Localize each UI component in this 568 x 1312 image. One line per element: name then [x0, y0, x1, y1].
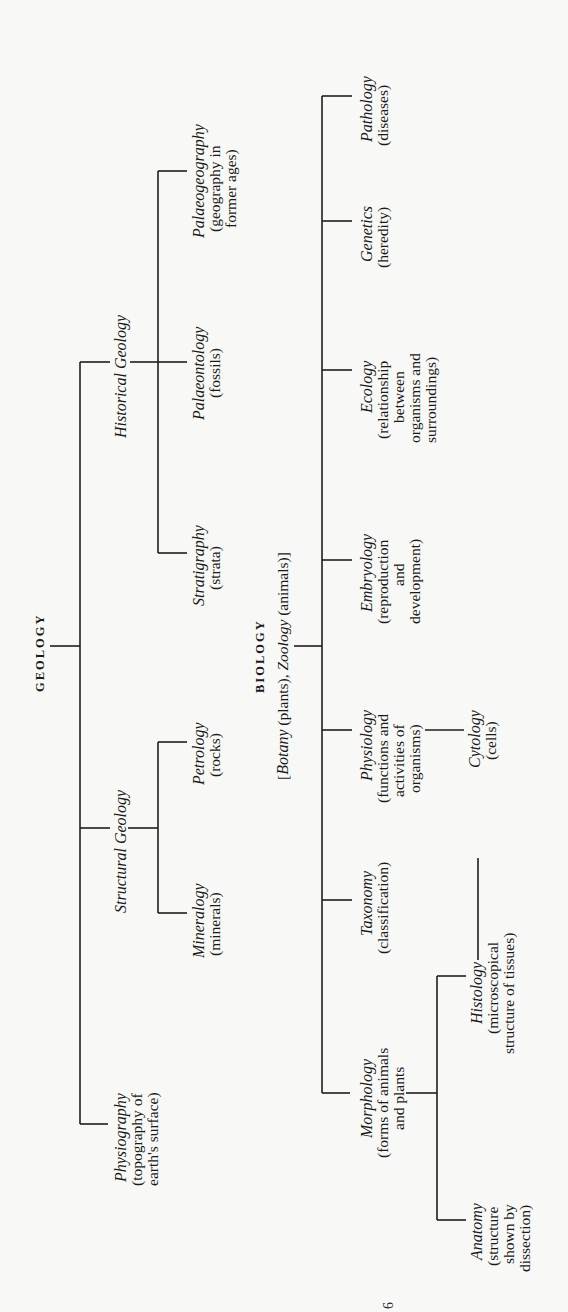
genetics-node: Genetics (heredity)	[358, 206, 392, 268]
palaeontology-node: Palaeontology (fossils)	[190, 326, 224, 421]
petrology-node: Petrology (rocks)	[190, 722, 224, 786]
historical-geology-label: Historical Geology	[112, 314, 130, 439]
page-mark: 6	[381, 1302, 396, 1309]
taxonomy-node: Taxonomy (classification)	[358, 862, 392, 954]
svg-text:and: and	[390, 563, 407, 586]
svg-text:earth's surface): earth's surface)	[144, 1092, 162, 1186]
svg-text:activities of: activities of	[390, 723, 407, 797]
svg-text:(rocks): (rocks)	[206, 733, 224, 777]
svg-text:organisms): organisms)	[406, 724, 424, 793]
svg-text:(strata): (strata)	[206, 546, 224, 590]
anatomy-node: Anatomy (structure shown by dissection)	[468, 1202, 534, 1272]
histology-node: Histology (microscopical structure of ti…	[468, 933, 518, 1054]
svg-text:structure of tissues): structure of tissues)	[500, 933, 518, 1054]
zoology-desc: (animals)]	[274, 552, 292, 616]
embryology-node: Embryology (reproduction and development…	[358, 533, 424, 624]
biology-root-subtitle: [Botany (plants), Zoology (animals)]	[274, 552, 292, 780]
zoology-label: Zoology	[274, 620, 291, 671]
svg-text:(classification): (classification)	[374, 862, 392, 954]
svg-text:dissection): dissection)	[516, 1205, 534, 1272]
geology-root-label: GEOLOGY	[33, 613, 47, 692]
svg-text:(heredity): (heredity)	[374, 207, 392, 268]
svg-text:former ages): former ages)	[222, 149, 240, 228]
svg-text:(diseases): (diseases)	[374, 85, 392, 146]
geology-tree-lines	[50, 171, 187, 1124]
classification-tree-diagram: GEOLOGY Historical Geology Palaeogeograp…	[0, 0, 568, 1312]
stratigraphy-node: Stratigraphy (strata)	[190, 524, 224, 606]
ecology-node: Ecology (relationship between organisms …	[358, 353, 440, 443]
svg-text:and plants: and plants	[390, 1067, 407, 1130]
svg-text:organisms and: organisms and	[406, 353, 423, 443]
svg-text:surroundings): surroundings)	[422, 357, 440, 443]
svg-text:(fossils): (fossils)	[206, 348, 224, 398]
biology-root-label: BIOLOGY	[253, 619, 267, 693]
palaeogeography-node: Palaeogeography (geography in former age…	[190, 123, 240, 239]
pathology-node: Pathology (diseases)	[358, 75, 392, 146]
morphology-node: Morphology (forms of animals and plants	[358, 1048, 407, 1158]
svg-text:[Botany (plants),: [Botany (plants), Zoology (animals)]	[274, 552, 292, 780]
svg-text:development): development)	[406, 539, 424, 624]
svg-text:(minerals): (minerals)	[206, 892, 224, 956]
svg-text:(cells): (cells)	[482, 721, 500, 760]
cytology-node: Cytology (cells)	[466, 709, 500, 768]
physiology-node: Physiology (functions and activities of …	[358, 709, 424, 803]
svg-text:Genetics: Genetics	[358, 206, 375, 262]
botany-label: Botany	[274, 729, 292, 775]
book-page: GEOLOGY Historical Geology Palaeogeograp…	[0, 0, 568, 1312]
structural-geology-label: Structural Geology	[112, 789, 130, 913]
svg-text:between: between	[390, 371, 407, 423]
mineralogy-node: Mineralogy (minerals)	[190, 882, 224, 959]
botany-desc: (plants),	[274, 674, 292, 725]
physiography-node: Physiography (topography of earth's surf…	[112, 1092, 162, 1186]
svg-text:shown by: shown by	[500, 1204, 517, 1264]
